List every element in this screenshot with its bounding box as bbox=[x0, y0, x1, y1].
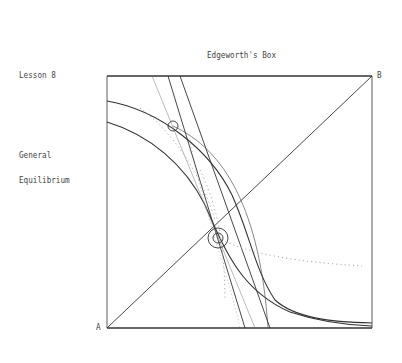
dotted-curves bbox=[140, 108, 362, 300]
indifference-curves-a bbox=[107, 101, 372, 326]
indifference-curves-b bbox=[173, 126, 268, 328]
edgeworth-box-diagram bbox=[0, 0, 402, 363]
price-lines bbox=[152, 76, 270, 328]
